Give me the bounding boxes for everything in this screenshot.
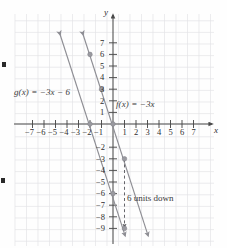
x-tick-4: 4	[157, 128, 161, 137]
x-tick-minus3: −3	[71, 128, 80, 137]
y-tick-6: 6	[100, 50, 104, 59]
y-tick-minus3: −3	[96, 155, 105, 164]
y-tick-4: 4	[100, 73, 104, 82]
x-tick-2: 2	[134, 128, 138, 137]
x-tick-minus5: −5	[48, 128, 57, 137]
y-axis-letter: y	[104, 8, 108, 17]
point-g-1-neg9	[122, 226, 127, 231]
function-label-g: g(x) = −3x − 6	[14, 88, 70, 97]
x-tick-minus4: −4	[60, 128, 69, 137]
figure-canvas: x y −7 −6 −5 −4 −3 −2 −1 1 2 3 4 5 6 7 7…	[0, 0, 227, 248]
x-tick-7: 7	[192, 128, 196, 137]
page-edge-mark-top	[2, 62, 6, 67]
y-tick-minus9: −9	[96, 224, 105, 233]
x-tick-5: 5	[169, 128, 173, 137]
y-tick-3: 3	[100, 85, 104, 94]
x-tick-6: 6	[180, 128, 184, 137]
y-tick-minus2: −2	[96, 143, 105, 152]
y-tick-minus8: −8	[96, 213, 105, 222]
y-tick-minus5: −5	[96, 178, 105, 187]
y-tick-2: 2	[100, 97, 104, 106]
y-tick-7: 7	[100, 39, 104, 48]
point-g-neg2-0	[88, 122, 93, 127]
x-tick-minus7: −7	[25, 128, 34, 137]
x-tick-minus2: −2	[83, 128, 92, 137]
x-tick-3: 3	[146, 128, 150, 137]
y-tick-minus4: −4	[96, 166, 105, 175]
translation-annotation-label: 6 units down	[127, 194, 174, 203]
function-label-f: f(x) = −3x	[116, 100, 155, 109]
x-tick-1: 1	[123, 128, 127, 137]
x-tick-minus1: −1	[94, 128, 103, 137]
page-edge-mark-bottom	[1, 178, 5, 183]
y-tick-1: 1	[100, 108, 104, 117]
x-tick-minus6: −6	[37, 128, 46, 137]
point-g-0-neg6	[111, 191, 116, 196]
point-f-neg2-6	[88, 52, 93, 57]
point-f-0-0	[111, 122, 116, 127]
x-axis-letter: x	[214, 126, 218, 135]
y-tick-minus7: −7	[96, 201, 105, 210]
point-f-1-neg3	[122, 157, 127, 162]
y-tick-minus6: −6	[96, 189, 105, 198]
coordinate-graph	[0, 0, 227, 248]
y-tick-5: 5	[100, 62, 104, 71]
